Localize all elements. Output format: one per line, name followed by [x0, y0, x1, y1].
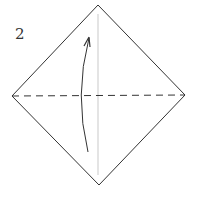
origami-diagram: 2 — [0, 0, 198, 198]
fold-diagram-svg — [0, 0, 198, 198]
